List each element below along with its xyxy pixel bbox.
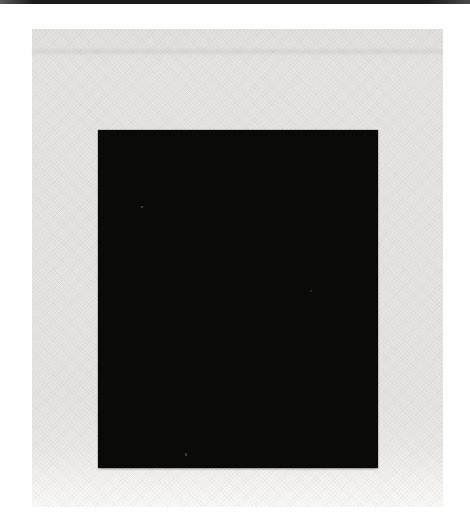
dust-speck	[310, 290, 312, 292]
scanned-page: { "image": { "kind": "scanned reproducti…	[0, 0, 470, 526]
painting-ground	[32, 29, 443, 507]
black-square	[98, 130, 378, 468]
scan-edge-line	[0, 0, 470, 4]
scan-streak	[32, 49, 443, 54]
dust-speck	[185, 453, 187, 456]
dust-speck	[141, 206, 143, 208]
